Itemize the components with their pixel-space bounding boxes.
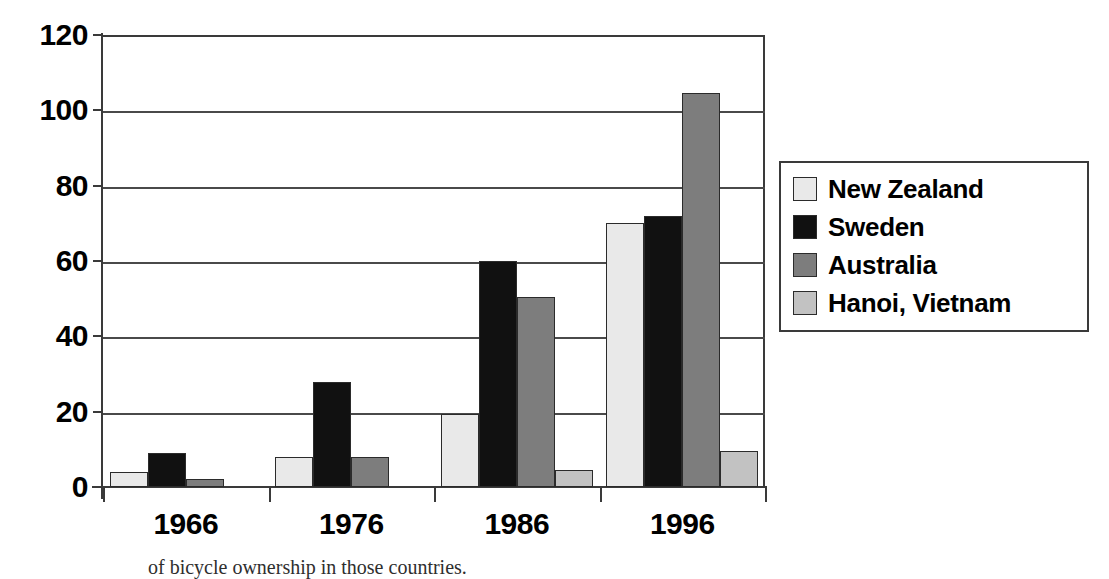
legend-swatch-icon <box>793 177 817 201</box>
x-axis-tick-mark <box>765 488 767 502</box>
x-axis-tick-mark <box>600 488 602 502</box>
bar <box>720 451 758 487</box>
x-axis-tick-label: 1976 <box>319 509 384 539</box>
x-axis-tick-label: 1986 <box>484 509 549 539</box>
y-axis-tick-label: 100 <box>39 95 88 125</box>
bar-group-1966 <box>103 35 269 487</box>
bar <box>606 223 644 487</box>
legend-item-label: New Zealand <box>828 176 984 202</box>
bar <box>186 479 224 487</box>
figure-caption: of bicycle ownership in those countries. <box>148 556 1048 579</box>
bar-group-1976 <box>269 35 435 487</box>
y-axis-tick-label: 0 <box>72 472 88 502</box>
legend-item-label: Sweden <box>828 214 924 240</box>
legend-item[interactable]: New Zealand <box>793 170 1077 208</box>
legend-item-label: Australia <box>828 252 937 278</box>
y-axis-tick-label: 120 <box>39 20 88 50</box>
x-axis-tick-label: 1966 <box>153 509 218 539</box>
x-axis-tick-mark <box>269 488 271 502</box>
y-axis-tick-label: 80 <box>56 171 88 201</box>
bar <box>517 297 555 487</box>
bar-group-1986 <box>434 35 600 487</box>
bar <box>479 261 517 487</box>
y-axis-tick-label: 20 <box>56 397 88 427</box>
legend-item[interactable]: Sweden <box>793 208 1077 246</box>
y-axis-tick-mark <box>93 185 103 187</box>
y-axis-tick-label: 40 <box>56 321 88 351</box>
legend-item-label: Hanoi, Vietnam <box>828 290 1011 316</box>
bar <box>313 382 351 487</box>
legend-item[interactable]: Hanoi, Vietnam <box>793 284 1077 322</box>
y-axis-tick-mark <box>93 260 103 262</box>
legend-swatch-icon <box>793 215 817 239</box>
bar <box>441 414 479 487</box>
y-axis-tick-label: 60 <box>56 246 88 276</box>
y-axis-tick-mark <box>93 34 103 36</box>
legend-swatch-icon <box>793 253 817 277</box>
bar-group-1996 <box>600 35 766 487</box>
bar <box>351 457 389 487</box>
y-axis-tick-mark <box>93 335 103 337</box>
legend-item[interactable]: Australia <box>793 246 1077 284</box>
x-axis-tick-label: 1996 <box>650 509 715 539</box>
bar <box>555 470 593 487</box>
bar <box>148 453 186 487</box>
chart-legend: New ZealandSwedenAustraliaHanoi, Vietnam <box>779 161 1089 332</box>
plot-area <box>103 35 765 487</box>
bar <box>275 457 313 487</box>
bar <box>110 472 148 487</box>
x-axis-tick-mark <box>103 488 105 502</box>
y-axis-tick-mark <box>93 109 103 111</box>
y-axis-tick-mark <box>93 486 103 488</box>
y-axis-label-group: 020406080100120 <box>0 0 96 577</box>
y-axis-tick-mark <box>93 411 103 413</box>
bar <box>682 93 720 487</box>
x-axis-tick-mark <box>434 488 436 502</box>
bar <box>644 216 682 487</box>
legend-swatch-icon <box>793 291 817 315</box>
